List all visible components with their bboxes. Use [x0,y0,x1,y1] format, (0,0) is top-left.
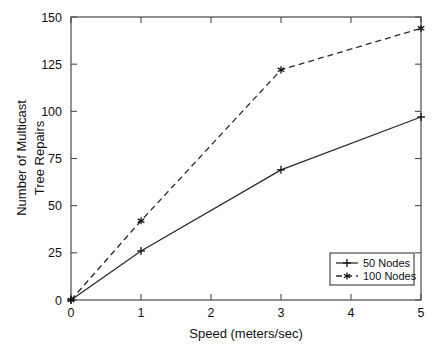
x-tick-label: 1 [138,306,145,320]
x-tick-label: 2 [208,306,215,320]
y-axis-ticks-right [415,17,421,300]
legend-label-100-nodes: 100 Nodes [363,270,417,282]
data-point-marker [137,247,145,255]
y-tick-label: 150 [41,11,62,25]
y-tick-label: 100 [41,105,62,119]
line-chart-svg: 0255075100125150 012345 Speed (meters/se… [0,0,437,345]
chart-figure: 0255075100125150 012345 Speed (meters/se… [0,0,437,345]
y-axis-ticks-left [71,17,77,300]
x-axis-ticks-top [71,17,421,23]
legend-label-50-nodes: 50 Nodes [363,257,411,269]
data-point-marker [278,66,285,73]
y-axis-title-line1: Number of Multicast [14,100,29,216]
x-axis-tick-labels: 012345 [68,306,425,320]
data-point-marker [418,25,425,32]
y-tick-label: 75 [48,152,62,166]
y-axis-title-line2: Tree Repairs [32,120,47,195]
x-tick-label: 4 [348,306,355,320]
x-axis-title: Speed (meters/sec) [189,326,302,341]
legend[interactable]: 50 Nodes 100 Nodes [330,253,417,285]
data-point-marker [277,166,285,174]
data-point-marker [417,113,425,121]
y-tick-label: 0 [55,294,62,308]
y-tick-label: 25 [48,246,62,260]
x-axis-ticks-bottom [71,294,421,300]
y-tick-label: 125 [41,58,62,72]
x-tick-label: 3 [278,306,285,320]
x-tick-label: 0 [68,306,75,320]
y-tick-label: 50 [48,199,62,213]
x-tick-label: 5 [418,306,425,320]
